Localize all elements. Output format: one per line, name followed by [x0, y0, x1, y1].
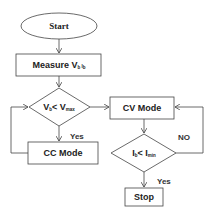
stop-node: Stop — [125, 188, 163, 206]
cc-mode-node: CC Mode — [28, 142, 98, 164]
edge-label-yes-1: Yes — [70, 132, 84, 141]
edge-label-no: NO — [178, 133, 190, 142]
cv-mode-label: CV Mode — [123, 103, 162, 113]
edge-decision2-no-loop — [175, 107, 203, 153]
edge-label-yes-2: Yes — [157, 177, 171, 186]
start-node: Start — [21, 13, 97, 39]
measure-node: Measure Vb Ib — [16, 54, 101, 76]
flowchart-canvas: Start Measure Vb Ib Vb< Vmax Yes CC Mode… — [0, 0, 217, 213]
stop-label: Stop — [134, 192, 154, 202]
start-label: Start — [49, 21, 69, 31]
cc-mode-label: CC Mode — [44, 148, 83, 158]
cv-mode-node: CV Mode — [110, 97, 174, 119]
decision1-node: Vb< Vmax — [29, 88, 90, 126]
decision2-node: Ib< Imin — [111, 134, 176, 172]
edge-cc-loop — [11, 107, 28, 153]
